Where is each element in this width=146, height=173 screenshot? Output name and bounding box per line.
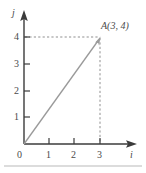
coordinate-plane-figure: j i 0 1 2 3 1 2 3 4 A(3, 4)	[0, 0, 146, 173]
y-axis-label: j	[12, 8, 15, 18]
point-a-label: A(3, 4)	[101, 21, 129, 31]
x-tick-label-1: 1	[46, 150, 51, 160]
origin-tick-label: 0	[17, 150, 22, 160]
x-tick-label-3: 3	[97, 150, 102, 160]
y-tick-label-4: 4	[14, 32, 19, 42]
y-tick-label-3: 3	[14, 59, 19, 69]
y-tick-label-2: 2	[14, 86, 19, 96]
x-tick-label-2: 2	[71, 150, 76, 160]
x-axis-label: i	[130, 150, 133, 160]
y-tick-label-1: 1	[14, 112, 19, 122]
vector-oa-line	[24, 42, 98, 145]
